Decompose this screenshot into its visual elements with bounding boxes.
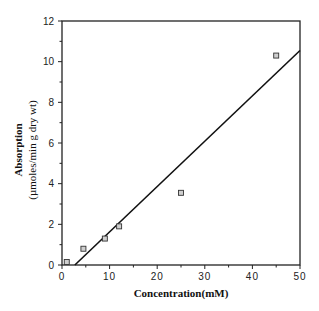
data-point-square-marker	[179, 190, 184, 195]
fit-line	[75, 50, 300, 265]
chart: 024681012 01020304050 Concentration(mM) …	[0, 0, 319, 311]
x-tick-label: 40	[246, 271, 259, 282]
x-tick-label: 20	[151, 271, 164, 282]
y-tick-label: 0	[48, 260, 54, 271]
y-axis-ticks: 024681012	[43, 16, 62, 271]
x-tick-label: 10	[103, 271, 116, 282]
plot-border	[62, 21, 300, 265]
y-tick-label: 4	[48, 178, 54, 189]
y-tick-label: 8	[48, 97, 54, 108]
data-points	[64, 53, 278, 264]
y-tick-label: 2	[48, 219, 54, 230]
data-point-square-marker	[81, 246, 86, 251]
y-tick-label: 10	[43, 56, 55, 67]
y-tick-label: 6	[48, 138, 54, 149]
y-axis-units: (µmoles/min g dry wt)	[26, 100, 39, 200]
y-tick-label: 12	[43, 16, 55, 27]
x-tick-label: 0	[59, 271, 66, 282]
y-axis-title: Absorption	[12, 123, 24, 176]
regression-line	[75, 50, 300, 265]
x-tick-label: 30	[198, 271, 211, 282]
plot-frame	[62, 21, 300, 265]
x-tick-label: 50	[293, 271, 306, 282]
data-point-square-marker	[117, 224, 122, 229]
data-point-square-marker	[274, 53, 279, 58]
data-point-square-marker	[102, 236, 107, 241]
data-point-square-marker	[64, 259, 69, 264]
x-axis-title: Concentration(mM)	[134, 287, 229, 300]
x-axis-ticks: 01020304050	[59, 265, 307, 282]
